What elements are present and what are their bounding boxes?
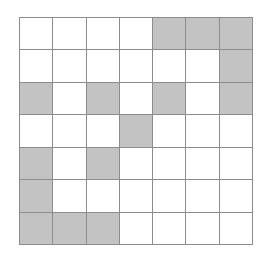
grid-cell-empty <box>87 50 119 81</box>
grid-cell-empty <box>220 213 252 244</box>
grid-cell-empty <box>53 50 85 81</box>
grid-cell-filled <box>220 50 252 81</box>
grid-cell-empty <box>53 148 85 179</box>
grid-cell-filled <box>120 115 152 146</box>
grid-cell-filled <box>220 18 252 49</box>
grid-cell-empty <box>186 180 218 211</box>
grid-cell-empty <box>53 18 85 49</box>
grid-cell-empty <box>153 50 185 81</box>
grid-cell-empty <box>120 213 152 244</box>
grid-cell-filled <box>220 83 252 114</box>
grid-cell-empty <box>220 180 252 211</box>
grid-cell-filled <box>20 148 52 179</box>
shaded-grid-figure <box>19 17 253 245</box>
grid-cell-empty <box>186 115 218 146</box>
grid-cell-empty <box>153 213 185 244</box>
grid-cell-empty <box>87 115 119 146</box>
grid-cell-filled <box>87 148 119 179</box>
grid-cell-empty <box>120 180 152 211</box>
grid-cell-empty <box>153 148 185 179</box>
grid-cell-empty <box>87 18 119 49</box>
grid-cell-empty <box>120 83 152 114</box>
grid-cell-empty <box>220 148 252 179</box>
grid-cell-empty <box>53 83 85 114</box>
grid-cell-filled <box>20 213 52 244</box>
grid-cell-empty <box>120 18 152 49</box>
grid-cell-empty <box>20 115 52 146</box>
grid-cell-empty <box>120 50 152 81</box>
grid-cell-filled <box>20 180 52 211</box>
grid-cell-filled <box>186 18 218 49</box>
grid-cell-filled <box>87 213 119 244</box>
grid-cell-empty <box>53 180 85 211</box>
grid-cell-empty <box>186 213 218 244</box>
grid-cell-filled <box>20 83 52 114</box>
grid-cell-empty <box>87 180 119 211</box>
grid-cell-empty <box>120 148 152 179</box>
grid-cell-empty <box>53 115 85 146</box>
grid-cell-empty <box>20 18 52 49</box>
grid-cell-filled <box>153 18 185 49</box>
grid-cell-filled <box>87 83 119 114</box>
grid-cell-filled <box>53 213 85 244</box>
grid-cell-empty <box>220 115 252 146</box>
grid-cell-empty <box>20 50 52 81</box>
grid-cell-empty <box>186 83 218 114</box>
grid-cell-empty <box>186 50 218 81</box>
grid-cell-filled <box>153 83 185 114</box>
grid-cell-empty <box>186 148 218 179</box>
grid-cell-empty <box>153 115 185 146</box>
grid-cell-empty <box>153 180 185 211</box>
